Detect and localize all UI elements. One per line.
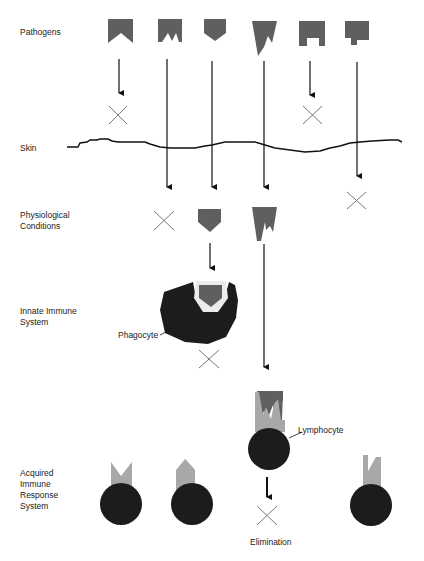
blocked-cross-icon	[303, 106, 322, 124]
blocked-cross-icon	[109, 106, 127, 124]
blocked-cross-icon	[257, 506, 277, 525]
skin-line	[67, 139, 402, 152]
pathogen-3-physiological-icon	[198, 209, 221, 232]
lymphocyte-receptor-3-icon	[350, 455, 392, 526]
pathogen-3-icon	[204, 19, 226, 41]
pathogen-2-icon	[158, 19, 182, 42]
blocked-cross-icon	[347, 192, 366, 209]
pathogen-4-icon	[252, 21, 277, 56]
pathogen-5-icon	[299, 21, 325, 46]
immune-defense-diagram	[0, 0, 424, 561]
pathogen-1-icon	[108, 19, 133, 43]
pathogen-6-icon	[345, 21, 369, 45]
lymphocyte-engaged-icon	[248, 391, 302, 470]
lymphocyte-receptor-2-icon	[171, 459, 213, 525]
phagocyte-cell-icon	[160, 281, 238, 344]
lymphocyte-receptor-1-icon	[100, 462, 142, 525]
blocked-cross-icon	[154, 211, 174, 230]
blocked-cross-icon	[199, 350, 219, 368]
pathogen-4-physiological-icon	[252, 207, 277, 241]
